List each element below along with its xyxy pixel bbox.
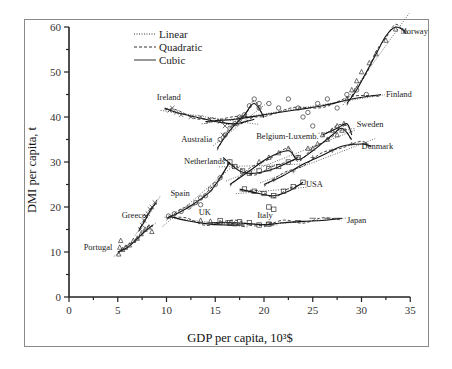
data-point: [306, 146, 310, 150]
data-point: [208, 219, 212, 223]
data-point: [118, 245, 122, 249]
data-point: [350, 87, 354, 91]
cubic-fit-line: [217, 103, 264, 148]
country-label: Australia: [181, 134, 212, 144]
data-point: [301, 115, 305, 119]
data-point: [286, 97, 290, 101]
data-point: [325, 97, 329, 101]
data-point: [252, 97, 256, 101]
x-tick-label: 30: [356, 304, 368, 316]
series-australia: [213, 101, 268, 151]
data-point: [257, 101, 261, 105]
data-point: [364, 92, 368, 96]
data-point: [267, 205, 271, 209]
data-point: [311, 124, 315, 128]
x-tick-label: 15: [210, 304, 222, 316]
x-axis-title: GDP per capita, 10³$: [187, 331, 292, 345]
markers-japan: [266, 218, 341, 223]
x-tick-label: 20: [259, 304, 271, 316]
data-point: [350, 142, 354, 146]
data-point: [223, 124, 227, 128]
country-label: Portugal: [84, 242, 113, 252]
x-tick-label: 0: [66, 304, 72, 316]
country-label: Denmark: [362, 141, 394, 151]
country-label: Sweden: [357, 119, 385, 129]
cubic-fit-line: [206, 95, 382, 122]
y-tick-label: 50: [50, 66, 62, 78]
country-label: UK: [199, 207, 212, 217]
legend-label-linear: Linear: [159, 28, 188, 40]
country-label: Finland: [386, 89, 413, 99]
data-point: [276, 106, 280, 110]
data-point: [117, 252, 121, 256]
data-point: [118, 238, 122, 242]
data-point: [367, 60, 371, 64]
data-point: [335, 106, 339, 110]
y-tick-label: 40: [50, 111, 62, 123]
x-tick-label: 10: [161, 304, 173, 316]
country-label: Greece: [122, 210, 146, 220]
markers-portugal: [117, 225, 155, 256]
data-point: [150, 229, 154, 233]
data-point: [335, 123, 339, 127]
data-point: [354, 78, 358, 82]
chart-canvas: 051015202530350102030405060 PortugalGree…: [0, 0, 452, 369]
data-point: [267, 101, 271, 105]
legend-label-quadratic: Quadratic: [159, 41, 202, 53]
series-uk: [165, 216, 249, 227]
x-tick-label: 35: [405, 304, 417, 316]
country-label: Ireland: [157, 92, 182, 102]
data-point: [140, 223, 144, 227]
country-label: Japan: [347, 215, 367, 225]
y-tick-label: 60: [50, 21, 62, 33]
data-point: [306, 110, 310, 114]
y-tick-label: 0: [56, 291, 62, 303]
country-label: Belgium-Luxemb.: [256, 131, 319, 141]
country-label: Spain: [170, 188, 190, 198]
country-label: Netherlands: [184, 156, 225, 166]
y-axis-title: DMI per capita, t: [25, 126, 39, 213]
legend: LinearQuadraticCubic: [134, 28, 202, 66]
legend-label-cubic: Cubic: [159, 54, 185, 66]
country-label: USA: [306, 179, 324, 189]
y-tick-label: 20: [50, 201, 62, 213]
country-label: Norway: [401, 26, 429, 36]
y-tick-label: 10: [50, 246, 62, 258]
x-tick-label: 5: [115, 304, 121, 316]
data-point: [218, 137, 222, 141]
data-point: [359, 69, 363, 73]
country-label: Italy: [257, 210, 273, 220]
x-tick-label: 25: [307, 304, 319, 316]
data-point: [198, 218, 202, 222]
y-tick-label: 30: [50, 156, 62, 168]
